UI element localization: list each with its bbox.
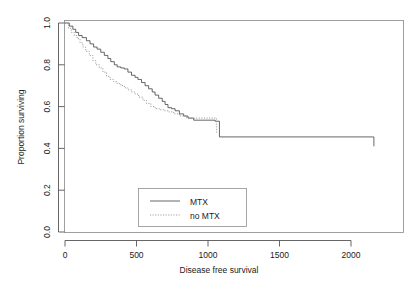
x-axis: 0500100015002000 xyxy=(63,241,361,261)
y-axis: 0.00.20.40.60.81.0 xyxy=(42,17,64,238)
legend: MTX no MTX xyxy=(139,189,247,227)
y-tick-label: 0.6 xyxy=(42,100,52,112)
y-tick-label: 0.8 xyxy=(42,59,52,71)
x-tick-label: 500 xyxy=(129,250,143,260)
kaplan-meier-plot: 0.00.20.40.60.81.0 0500100015002000 MTX … xyxy=(0,0,419,297)
x-tick-label: 2000 xyxy=(342,250,361,260)
survival-chart-figure: 0.00.20.40.60.81.0 0500100015002000 MTX … xyxy=(0,0,419,297)
y-tick-label: 0.2 xyxy=(42,184,52,196)
x-tick-label: 0 xyxy=(63,250,68,260)
y-tick-label: 1.0 xyxy=(42,17,52,29)
legend-label-no-mtx: no MTX xyxy=(190,211,220,221)
x-tick-label: 1000 xyxy=(199,250,218,260)
y-tick-label: 0.4 xyxy=(42,142,52,154)
x-axis-label: Disease free survival xyxy=(180,265,259,275)
y-tick-label: 0.0 xyxy=(42,226,52,238)
y-axis-label: Proportion surviving xyxy=(16,89,26,164)
x-tick-label: 1500 xyxy=(270,250,289,260)
legend-label-mtx: MTX xyxy=(190,197,208,207)
series-line-mtx xyxy=(65,23,374,146)
legend-box xyxy=(139,189,247,227)
series-line-no-mtx xyxy=(65,23,217,134)
